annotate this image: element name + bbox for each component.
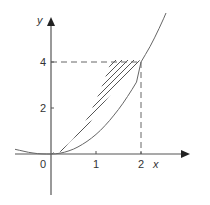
curves-layer (0, 0, 210, 205)
